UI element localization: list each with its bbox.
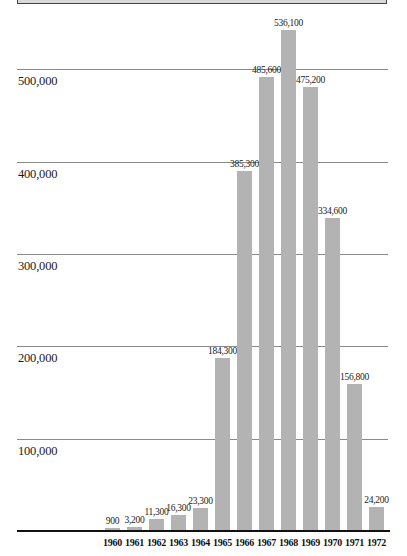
bar-1963 [171, 515, 186, 530]
bar-1964 [193, 508, 208, 530]
value-label: 536,100 [264, 18, 314, 28]
y-tick-label: 400,000 [18, 167, 57, 182]
x-axis-baseline [17, 530, 390, 532]
bar-1967 [259, 77, 274, 530]
bar-1969 [303, 87, 318, 530]
bar-1972 [369, 507, 384, 530]
bar-1962 [149, 519, 164, 530]
value-label: 24,200 [352, 495, 402, 505]
y-tick-label: 500,000 [18, 74, 57, 89]
x-tick-label: 1972 [362, 537, 392, 548]
gridline [17, 162, 388, 163]
title-box-cropped [17, 0, 387, 4]
value-label: 334,600 [308, 206, 358, 216]
value-label: 475,200 [286, 75, 336, 85]
bar-1968 [281, 30, 296, 530]
gridline [17, 69, 388, 70]
y-tick-label: 300,000 [18, 259, 57, 274]
y-tick-label: 100,000 [18, 444, 57, 459]
y-tick-label: 200,000 [18, 351, 57, 366]
bar-1965 [215, 358, 230, 530]
bar-1971 [347, 384, 362, 530]
value-label: 156,800 [330, 372, 380, 382]
bar-1966 [237, 171, 252, 530]
